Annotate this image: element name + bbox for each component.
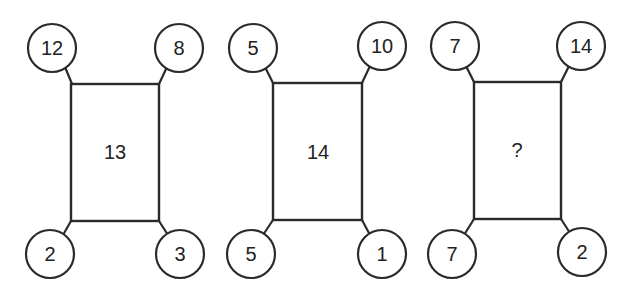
bottom-left-number: 7 (446, 243, 457, 266)
top-right-number: 10 (371, 35, 393, 58)
top-left-number: 12 (41, 37, 63, 60)
top-right-number: 8 (173, 37, 184, 60)
bottom-right-number: 2 (576, 241, 587, 264)
bottom-right-number: 3 (174, 243, 185, 266)
bottom-right-number: 1 (376, 243, 387, 266)
center-number: 14 (307, 141, 329, 164)
bottom-left-number: 5 (245, 243, 256, 266)
top-right-number: 14 (570, 35, 592, 58)
top-left-number: 5 (247, 37, 258, 60)
center-number: 13 (104, 141, 126, 164)
top-left-number: 7 (449, 35, 460, 58)
unknown-center-number: ? (511, 139, 522, 162)
bottom-left-number: 2 (44, 243, 55, 266)
